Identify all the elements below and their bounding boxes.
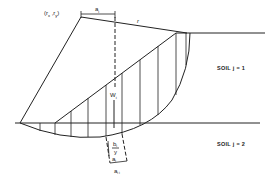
soil-2-label: SOIL j = 2 (217, 141, 245, 147)
angle-label: ai i (114, 168, 120, 175)
slice-width-denominator: y (114, 149, 117, 155)
radius-label: r (137, 18, 140, 24)
radius-line (81, 17, 187, 33)
slice-width-label: bi (113, 141, 117, 148)
slope-face (20, 17, 81, 123)
slice-base-label: ai (112, 156, 116, 163)
soil-1-label: SOIL j = 1 (217, 65, 245, 71)
moment-arm-label: ai (95, 6, 99, 14)
weight-label: Wi (110, 92, 117, 100)
center-label: (rx ,ry) (44, 10, 59, 18)
slope-stability-diagram: (rx ,ry) ai r Wi bi y ai ai i SOIL j = 1… (0, 0, 272, 182)
slices (40, 33, 186, 137)
